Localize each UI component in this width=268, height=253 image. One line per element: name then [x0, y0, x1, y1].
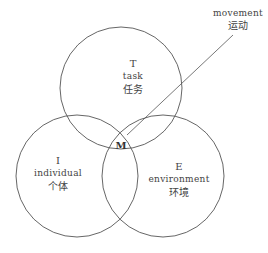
environment-label-en: environment [148, 173, 209, 186]
task-letter: T [130, 57, 137, 70]
individual-letter: I [56, 154, 60, 167]
callout-label-zh: 运动 [228, 19, 248, 32]
intersection-label: M [115, 139, 126, 152]
task-label-zh: 任务 [123, 83, 143, 96]
task-label-en: task [123, 70, 143, 83]
environment-label-zh: 环境 [169, 186, 189, 199]
venn-shapes [0, 0, 268, 253]
individual-label-zh: 个体 [48, 180, 68, 193]
environment-letter: E [175, 160, 182, 173]
individual-label-en: individual [34, 167, 82, 180]
circle-task [60, 27, 182, 149]
venn-diagram: movement 运动 T task 任务 I individual 个体 E … [0, 0, 268, 253]
